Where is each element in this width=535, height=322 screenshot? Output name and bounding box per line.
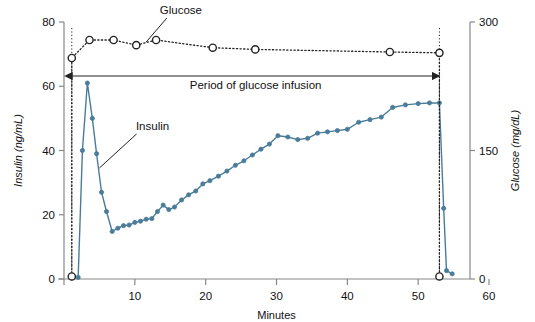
data-point-insulin (138, 219, 142, 223)
annotations-layer (72, 18, 440, 279)
data-point-insulin (368, 118, 372, 122)
data-point-insulin (315, 131, 319, 135)
left-axis-tick-label: 20 (42, 209, 55, 221)
data-point-insulin (144, 217, 148, 221)
axes-layer: 020406080Insulin (ng/mL)0150300Glucose (… (12, 16, 521, 321)
data-point-insulin (233, 163, 237, 167)
data-point-insulin (127, 223, 131, 227)
data-point-insulin (391, 105, 395, 109)
right-axis-tick-label: 0 (479, 273, 485, 285)
data-point-insulin (121, 224, 125, 228)
left-axis-tick-label: 0 (49, 273, 55, 285)
x-axis-tick-label: 20 (199, 290, 212, 302)
data-point-insulin (267, 142, 271, 146)
infusion-span-label: Period of glucose infusion (190, 79, 322, 91)
left-axis-tick-label: 80 (42, 16, 55, 28)
data-point-insulin (325, 130, 329, 134)
data-point-insulin (94, 152, 98, 156)
x-axis-tick-label: 60 (483, 290, 496, 302)
data-point-insulin (161, 203, 165, 207)
series-layer (68, 36, 454, 280)
data-point-glucose (86, 36, 93, 43)
chart-container: 020406080Insulin (ng/mL)0150300Glucose (… (0, 0, 535, 322)
left-axis-tick-label: 40 (42, 145, 55, 157)
data-point-insulin (306, 136, 310, 140)
data-point-insulin (85, 81, 89, 85)
left-axis-title: Insulin (ng/mL) (12, 114, 24, 187)
data-point-insulin (194, 189, 198, 193)
x-axis-title: Minutes (257, 309, 296, 321)
data-point-insulin (201, 182, 205, 186)
x-axis-tick-label: 50 (412, 290, 425, 302)
right-axis-title: Glucose (mg/dL) (509, 110, 521, 192)
data-point-insulin (357, 120, 361, 124)
data-point-insulin (116, 226, 120, 230)
data-point-insulin (216, 174, 220, 178)
data-point-insulin (345, 127, 349, 131)
data-point-insulin (104, 209, 108, 213)
labels-layer: Period of glucose infusionGlucoseInsulin (136, 4, 322, 132)
data-point-insulin (187, 193, 191, 197)
data-point-insulin (335, 128, 339, 132)
data-point-glucose (133, 42, 140, 49)
data-point-insulin (379, 115, 383, 119)
data-point-insulin (427, 101, 431, 105)
data-point-insulin (179, 198, 183, 202)
data-point-glucose (110, 36, 117, 43)
data-point-glucose (68, 273, 75, 280)
data-point-insulin (208, 179, 212, 183)
data-point-insulin (286, 135, 290, 139)
data-point-insulin (110, 229, 114, 233)
data-point-glucose (68, 54, 75, 61)
insulin-series-label: Insulin (136, 120, 169, 132)
data-point-insulin (155, 209, 159, 213)
data-point-glucose (209, 44, 216, 51)
data-point-insulin (167, 208, 171, 212)
data-point-insulin (403, 103, 407, 107)
data-point-glucose (152, 36, 159, 43)
data-point-insulin (76, 275, 80, 279)
insulin-glucose-chart: 020406080Insulin (ng/mL)0150300Glucose (… (0, 0, 535, 322)
series-line-insulin (78, 83, 452, 277)
x-axis-tick-label: 30 (270, 290, 283, 302)
data-point-insulin (80, 148, 84, 152)
data-point-insulin (225, 169, 229, 173)
x-axis-tick-label: 40 (341, 290, 354, 302)
data-point-insulin (150, 217, 154, 221)
data-point-insulin (242, 159, 246, 163)
data-point-insulin (133, 220, 137, 224)
data-point-insulin (442, 206, 446, 210)
data-point-insulin (259, 147, 263, 151)
data-point-insulin (99, 190, 103, 194)
data-point-insulin (172, 205, 176, 209)
data-point-insulin (444, 269, 448, 273)
data-point-insulin (276, 134, 280, 138)
data-point-insulin (90, 116, 94, 120)
data-point-insulin (296, 137, 300, 141)
data-point-glucose (386, 48, 393, 55)
x-axis-tick-label: 10 (128, 290, 141, 302)
right-axis-tick-label: 300 (479, 16, 498, 28)
data-point-insulin (250, 153, 254, 157)
insulin-leader-line (99, 134, 136, 168)
data-point-glucose (436, 49, 443, 56)
data-point-insulin (450, 272, 454, 276)
glucose-series-label: Glucose (160, 4, 202, 16)
data-point-glucose (252, 46, 259, 53)
data-point-insulin (416, 101, 420, 105)
left-axis-tick-label: 60 (42, 80, 55, 92)
data-point-glucose (436, 273, 443, 280)
right-axis-tick-label: 150 (479, 145, 498, 157)
